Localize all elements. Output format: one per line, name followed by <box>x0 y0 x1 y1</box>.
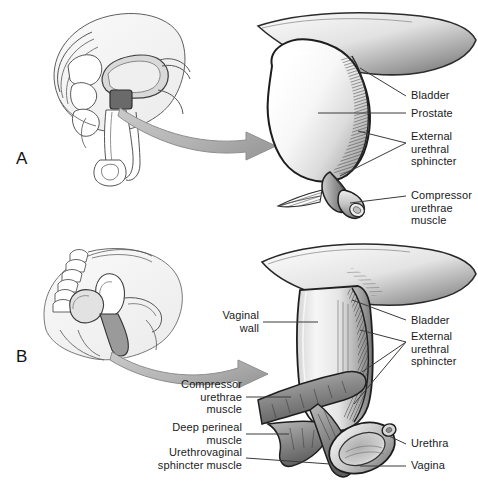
label-bladder-b: Bladder <box>411 314 450 327</box>
bladder-inset-b <box>70 290 104 323</box>
pelvic-floor-dome-b <box>262 244 476 305</box>
label-urethrovaginal-sphincter-muscle-b: Urethrovaginal sphincter muscle <box>128 446 242 471</box>
label-compressor-urethrae-muscle-b: Compressor urethrae muscle <box>150 378 242 416</box>
label-vaginal-wall-b: Vaginal wall <box>173 309 259 334</box>
label-vagina-b: Vagina <box>411 459 445 472</box>
label-urethra-b: Urethra <box>411 437 448 450</box>
label-compressor-urethrae-muscle-a: Compressor urethrae muscle <box>411 189 472 227</box>
label-prostate-a: Prostate <box>411 107 453 120</box>
panel-letter-b: B <box>16 347 27 367</box>
label-external-urethral-sphincter-b: External urethral sphincter <box>411 330 457 368</box>
anatomy-figure: A B Bladder Prostate External urethral s… <box>0 0 478 483</box>
prostate-inset-marker <box>110 90 132 109</box>
panel-b-inset-sketch <box>44 249 182 360</box>
label-bladder-a: Bladder <box>411 89 450 102</box>
label-external-urethral-sphincter-a: External urethral sphincter <box>411 130 457 168</box>
panel-a-inset-sketch <box>54 13 190 186</box>
label-deep-perineal-muscle-b: Deep perineal muscle <box>146 421 242 446</box>
panel-letter-a: A <box>16 149 27 169</box>
